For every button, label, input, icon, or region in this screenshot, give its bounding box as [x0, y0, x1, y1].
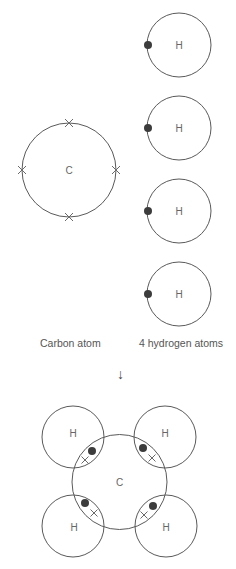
carbon-symbol: C — [65, 165, 72, 176]
hydrogen-atom-1: H — [144, 13, 211, 77]
hydrogen-electron-dot — [144, 207, 152, 215]
product-hydrogen-symbol-bottom-right: H — [162, 522, 169, 533]
hydrogen-symbol: H — [175, 40, 182, 51]
hydrogen-electron-dot — [144, 290, 152, 298]
hydrogen-electron-dot — [81, 499, 89, 507]
hydrogen-electron-dot — [144, 41, 152, 49]
hydrogen-atom-2: H — [144, 96, 211, 160]
methane-molecule: C H H H H — [42, 406, 197, 557]
hydrogen-symbol: H — [175, 123, 182, 134]
carbon-atom-caption: Carbon atom — [40, 337, 101, 349]
hydrogen-atoms-caption: 4 hydrogen atoms — [139, 337, 223, 349]
shared-electron-pair-top-right — [139, 444, 156, 462]
hydrogen-atom-3: H — [144, 179, 211, 243]
hydrogen-atom-4: H — [144, 262, 211, 326]
hydrogen-symbol: H — [175, 206, 182, 217]
shared-electron-pair-top-left — [82, 447, 97, 464]
reaction-arrow-icon: ↓ — [117, 366, 124, 382]
carbon-atom: C — [18, 119, 120, 221]
hydrogen-electron-dot — [88, 447, 96, 455]
product-hydrogen-symbol-bottom-left: H — [70, 522, 77, 533]
shared-electron-pair-bottom-left — [81, 499, 98, 517]
hydrogen-electron-dot — [139, 444, 147, 452]
product-carbon-symbol: C — [116, 477, 123, 488]
product-hydrogen-symbol-top-right: H — [161, 428, 168, 439]
hydrogen-electron-dot — [149, 502, 157, 510]
hydrogen-symbol: H — [175, 289, 182, 300]
shared-electron-pair-bottom-right — [141, 502, 158, 519]
hydrogen-electron-dot — [144, 124, 152, 132]
product-hydrogen-symbol-top-left: H — [69, 428, 76, 439]
methane-covalent-bonding-diagram: C H H H H — [0, 0, 236, 569]
